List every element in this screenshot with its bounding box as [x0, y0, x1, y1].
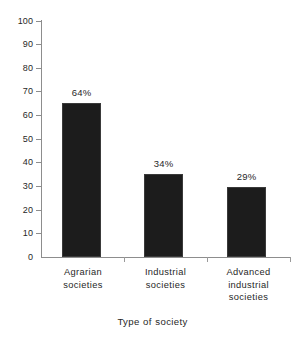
y-tick-label: 60 [3, 111, 33, 120]
x-category-label-advanced-industrial: Advanced industrial societies [207, 266, 290, 304]
x-category-line: societies [42, 279, 124, 292]
bar-value-label: 29% [217, 172, 276, 182]
x-tick-mark-2 [207, 257, 208, 262]
y-tick-label: 40 [3, 158, 33, 167]
y-tick-label: 80 [3, 64, 33, 73]
y-tick-label: 0 [3, 253, 33, 262]
y-tick-40: 40 [0, 158, 33, 167]
bar-value-label: 64% [52, 88, 111, 98]
y-tick-30: 30 [0, 182, 33, 191]
x-tick-mark-1 [124, 257, 125, 262]
x-category-line: societies [207, 291, 290, 304]
y-tick-0: 0 [0, 253, 33, 262]
y-tick-label: 10 [3, 229, 33, 238]
y-tick-label: 70 [3, 87, 33, 96]
y-tick-80: 80 [0, 64, 33, 73]
y-tick-20: 20 [0, 206, 33, 215]
x-category-line: Industrial [124, 266, 207, 279]
x-axis-line [41, 257, 290, 258]
x-axis-title: Type of society [0, 316, 305, 327]
y-tick-90: 90 [0, 40, 33, 49]
bar-advanced-industrial-societies [227, 187, 266, 257]
x-category-line: Agrarian [42, 266, 124, 279]
x-category-line: Advanced [207, 266, 290, 279]
y-axis-line [41, 20, 42, 258]
y-tick-50: 50 [0, 135, 33, 144]
y-tick-label: 100 [3, 17, 33, 26]
y-tick-60: 60 [0, 111, 33, 120]
y-tick-label: 20 [3, 206, 33, 215]
y-tick-70: 70 [0, 87, 33, 96]
x-category-label-agrarian: Agrarian societies [42, 266, 124, 291]
y-tick-10: 10 [0, 229, 33, 238]
x-category-line: industrial [207, 279, 290, 292]
bar-chart: 100 90 80 70 60 50 40 30 20 10 0 [0, 0, 305, 341]
bar-value-label: 34% [134, 159, 193, 169]
x-category-label-industrial: Industrial societies [124, 266, 207, 291]
y-tick-label: 30 [3, 182, 33, 191]
y-tick-label: 90 [3, 40, 33, 49]
bar-industrial-societies [144, 174, 183, 257]
x-tick-mark-3 [290, 257, 291, 262]
x-category-line: societies [124, 279, 207, 292]
y-tick-100: 100 [0, 17, 33, 26]
y-tick-label: 50 [3, 135, 33, 144]
bar-agrarian-societies [62, 103, 101, 257]
